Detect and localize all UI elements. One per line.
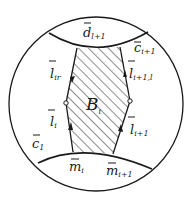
bottom-boundary-arc [38,153,152,169]
diagram-canvas: Bi dl+1 ci+1 lir li+1,l li li+1 c1 mi mi… [0,0,192,199]
label-bottom-point-left: mi [69,159,84,175]
label-left-upper-edge: lir [50,66,62,82]
label-top-arc: dl+1 [83,25,106,41]
label-left-lower-edge: li [50,114,57,130]
label-right-lower-edge: li+1 [130,122,149,138]
vertex-right [128,99,132,103]
label-bottom-point-right: mi+1 [106,163,133,179]
label-top-right-arc: ci+1 [134,40,156,56]
label-right-upper-edge: li+1,l [129,66,153,82]
label-bottom-left-arc: c1 [32,136,44,152]
vertex-left [64,101,68,105]
